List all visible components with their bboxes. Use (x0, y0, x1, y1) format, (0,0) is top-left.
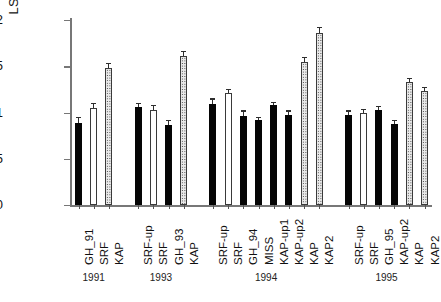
error-bar-cap (361, 109, 366, 110)
error-bar (348, 112, 349, 116)
error-bar-cap (376, 106, 381, 107)
bar (150, 110, 157, 205)
x-tick-mark (425, 205, 426, 209)
bar (255, 120, 262, 205)
error-bar-cap (76, 117, 81, 118)
error-bar-cap (151, 105, 156, 106)
error-bar-cap (422, 87, 427, 88)
error-bar (273, 103, 274, 105)
x-tick-mark (169, 205, 170, 209)
y-tick-label: 2 (0, 13, 3, 26)
error-bar (288, 112, 289, 116)
bars-area (70, 20, 430, 205)
x-tick-mark (319, 205, 320, 209)
error-bar-cap (210, 98, 215, 99)
error-bar (153, 106, 154, 110)
x-tick-mark (379, 205, 380, 209)
error-bar-cap (286, 110, 291, 111)
error-bar (304, 58, 305, 62)
x-tick-label: KAP2 (429, 236, 441, 265)
error-bar (378, 107, 379, 110)
x-tick-mark (138, 205, 139, 209)
error-bar (409, 79, 410, 82)
x-tick-label: KAP-up2 (398, 219, 410, 265)
error-bar (243, 112, 244, 117)
x-tick-mark (109, 205, 110, 209)
error-bar-cap (226, 89, 231, 90)
x-tick-label: GH_93 (173, 229, 185, 265)
x-tick-label: SRF-up (142, 225, 154, 265)
x-tick-label: GH_94 (247, 229, 259, 265)
error-bar-cap (181, 51, 186, 52)
error-bar-cap (407, 78, 412, 79)
error-bar (319, 28, 320, 33)
error-bar (424, 88, 425, 91)
bar (180, 56, 187, 205)
y-axis-title: LSI (%) (6, 0, 21, 52)
error-bar-cap (241, 110, 246, 111)
bar (135, 107, 142, 205)
bar (209, 104, 216, 205)
x-tick-label: KAP (413, 242, 425, 265)
x-tick-mark (259, 205, 260, 209)
x-tick-label: KAP (308, 242, 320, 265)
error-bar-cap (392, 120, 397, 121)
x-tick-label: SRF (98, 242, 110, 265)
y-tick-label: 0 (0, 198, 3, 211)
x-tick-mark (243, 205, 244, 209)
bar (240, 116, 247, 205)
x-axis-line (70, 205, 432, 207)
bar (105, 68, 112, 205)
group-label: 1995 (367, 272, 407, 283)
error-bar-cap (256, 117, 261, 118)
error-bar (258, 118, 259, 120)
bar (345, 115, 352, 205)
x-tick-mark (213, 205, 214, 209)
bar (406, 82, 413, 205)
x-tick-mark (153, 205, 154, 209)
bar (165, 125, 172, 205)
error-bar-cap (91, 103, 96, 104)
y-tick-label: 0.5 (0, 152, 3, 165)
group-label: 1993 (141, 272, 181, 283)
error-bar (212, 100, 213, 105)
bar (90, 108, 97, 205)
bar (301, 62, 308, 205)
x-tick-mark (94, 205, 95, 209)
x-tick-mark (304, 205, 305, 209)
bar (316, 33, 323, 205)
group-label: 1991 (74, 272, 114, 283)
x-tick-label: MISS (263, 237, 275, 265)
error-bar (138, 104, 139, 107)
bar (391, 124, 398, 205)
x-tick-label: KAP2 (323, 236, 335, 265)
y-tick-label: 1.5 (0, 59, 3, 72)
x-tick-label: GH_91 (83, 229, 95, 265)
x-tick-label: SRF-up (353, 225, 365, 265)
x-tick-mark (364, 205, 365, 209)
error-bar (78, 118, 79, 123)
x-tick-label: KAP-up1 (278, 219, 290, 265)
error-bar (394, 121, 395, 124)
error-bar-cap (106, 63, 111, 64)
x-tick-label: GH_95 (383, 229, 395, 265)
x-tick-mark (228, 205, 229, 209)
x-tick-label: SRF-up (217, 225, 229, 265)
bar (75, 123, 82, 205)
x-tick-mark (349, 205, 350, 209)
x-tick-label: KAP (188, 242, 200, 265)
y-tick-mark (64, 205, 70, 206)
x-tick-mark (409, 205, 410, 209)
y-tick-label: 1 (0, 106, 3, 119)
x-tick-label: SRF (368, 242, 380, 265)
x-tick-mark (274, 205, 275, 209)
bar (421, 91, 428, 205)
error-bar-cap (346, 110, 351, 111)
bar (375, 110, 382, 205)
x-tick-mark (394, 205, 395, 209)
x-tick-label: KAP (113, 242, 125, 265)
x-tick-label: SRF (157, 242, 169, 265)
error-bar-cap (166, 120, 171, 121)
error-bar-cap (136, 103, 141, 104)
